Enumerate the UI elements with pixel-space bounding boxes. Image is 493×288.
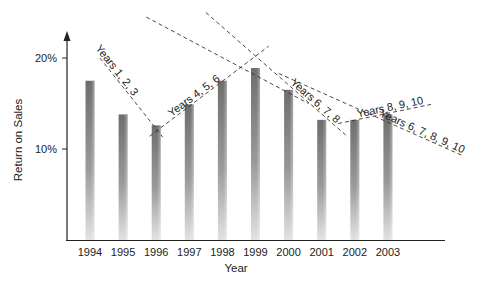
x-tick-label: 1995 bbox=[111, 246, 135, 258]
trendline-label: Years 1, 2, 3 bbox=[93, 42, 141, 98]
bar-1998 bbox=[218, 81, 227, 240]
y-ticks: 10%20% bbox=[35, 52, 67, 155]
x-tick-label: 1996 bbox=[144, 246, 168, 258]
trendline-2: Years 4, 5, 6 bbox=[150, 46, 269, 136]
bar-shade bbox=[350, 120, 359, 240]
bar-1997 bbox=[185, 104, 194, 240]
y-axis-arrow-icon bbox=[64, 31, 71, 41]
x-tick-label: 1999 bbox=[243, 246, 267, 258]
x-tick-label: 1998 bbox=[210, 246, 234, 258]
y-tick-label: 20% bbox=[35, 52, 57, 64]
x-tick-label: 1997 bbox=[177, 246, 201, 258]
x-tick-label: 2003 bbox=[376, 246, 400, 258]
trendline-3 bbox=[146, 17, 308, 103]
trendline-1: Years 1, 2, 3 bbox=[93, 42, 162, 137]
bar-1996 bbox=[152, 125, 161, 240]
bar-shade bbox=[284, 90, 293, 240]
trendline-label: Years 6, 7, 8 bbox=[289, 76, 343, 125]
bar-2003 bbox=[383, 114, 392, 240]
bar-shade bbox=[218, 81, 227, 240]
bar-2001 bbox=[317, 120, 326, 240]
bar-1999 bbox=[251, 68, 260, 240]
bar-shade bbox=[317, 120, 326, 240]
trendline-path bbox=[146, 17, 308, 103]
trendline-path bbox=[279, 73, 464, 156]
bar-shade bbox=[86, 81, 95, 240]
bar-2002 bbox=[350, 120, 359, 240]
x-ticks: 1994199519961997199819992000200120022003 bbox=[78, 246, 400, 258]
x-tick-label: 1994 bbox=[78, 246, 102, 258]
x-tick-label: 2001 bbox=[309, 246, 333, 258]
y-axis-title: Return on Sales bbox=[12, 99, 24, 182]
x-tick-label: 2000 bbox=[276, 246, 300, 258]
y-tick-label: 10% bbox=[35, 143, 57, 155]
bar-shade bbox=[119, 114, 128, 240]
bar-shade bbox=[383, 114, 392, 240]
bar-shade bbox=[152, 125, 161, 240]
trendline-4: Years 6, 7, 8 bbox=[206, 13, 348, 138]
bar-shade bbox=[251, 68, 260, 240]
bar-1994 bbox=[86, 81, 95, 240]
bar-1995 bbox=[119, 114, 128, 240]
return-on-sales-chart: Years 1, 2, 3Years 4, 5, 6Years 6, 7, 8Y… bbox=[0, 0, 493, 288]
x-axis-title: Year bbox=[224, 262, 247, 274]
bar-shade bbox=[185, 104, 194, 240]
trendlines: Years 1, 2, 3Years 4, 5, 6Years 6, 7, 8Y… bbox=[93, 13, 466, 157]
x-tick-label: 2002 bbox=[343, 246, 367, 258]
bar-2000 bbox=[284, 90, 293, 240]
